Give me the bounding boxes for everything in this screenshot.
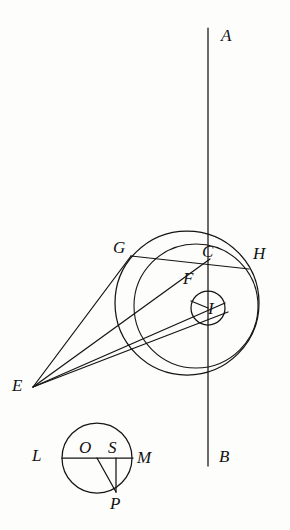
ray-e-g [33, 256, 131, 387]
point-label-p: P [110, 495, 120, 512]
point-label-l: L [32, 447, 41, 464]
segment-f-i [191, 301, 208, 308]
chord-g-h [131, 256, 249, 269]
point-label-c: C [202, 243, 213, 260]
point-label-e: E [12, 377, 22, 394]
point-label-f: F [183, 270, 193, 287]
point-label-h: H [253, 245, 265, 262]
point-label-b: B [219, 448, 229, 465]
geometry-figure: A B C E F G H I L M O P S [0, 0, 290, 530]
point-label-g: G [113, 239, 125, 256]
segment-o-p [97, 458, 116, 492]
point-label-a: A [221, 27, 231, 44]
point-label-i: I [208, 300, 214, 317]
point-label-o: O [79, 439, 91, 456]
outer-circle [115, 231, 259, 375]
point-label-m: M [137, 449, 151, 466]
ray-e-i [33, 312, 228, 387]
point-label-s: S [108, 439, 117, 456]
